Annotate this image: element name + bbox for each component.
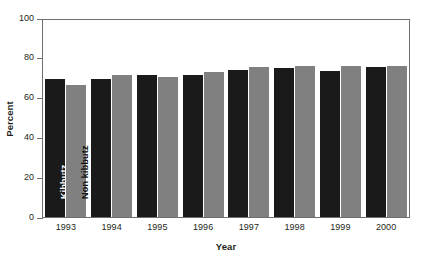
bar-kibbutz[interactable]: Kibbutz bbox=[45, 79, 65, 217]
bar-kibbutz[interactable] bbox=[228, 70, 248, 217]
y-axis-tick-label: 60 bbox=[24, 91, 34, 104]
in-bar-label-non-kibbutz: Non kibbutz bbox=[80, 99, 90, 199]
bar-kibbutz[interactable] bbox=[366, 67, 386, 217]
y-axis-tick-label: 20 bbox=[24, 171, 34, 184]
bar-kibbutz[interactable] bbox=[183, 75, 203, 217]
bar-kibbutz[interactable] bbox=[91, 79, 111, 217]
bar-non-kibbutz[interactable] bbox=[295, 66, 315, 217]
bar-group bbox=[274, 20, 315, 217]
bar-non-kibbutz[interactable]: Non kibbutz bbox=[66, 85, 86, 217]
bar-chart-figure: Percent 020406080100 KibbutzNon kibbutz … bbox=[0, 0, 421, 260]
bar-group bbox=[183, 20, 224, 217]
bar-group bbox=[91, 20, 132, 217]
bar-non-kibbutz[interactable] bbox=[387, 66, 407, 217]
bar-group bbox=[228, 20, 269, 217]
bar-non-kibbutz[interactable] bbox=[204, 72, 224, 217]
bar-group bbox=[137, 20, 178, 217]
x-axis-title: Year bbox=[42, 241, 410, 252]
bar-non-kibbutz[interactable] bbox=[112, 75, 132, 217]
bar-group bbox=[320, 20, 361, 217]
y-axis-tick-label: 40 bbox=[24, 131, 34, 144]
bar-non-kibbutz[interactable] bbox=[341, 66, 361, 217]
y-axis-tick-label: 100 bbox=[19, 12, 34, 25]
bar-kibbutz[interactable] bbox=[320, 71, 340, 217]
y-axis-tick-label: 80 bbox=[24, 51, 34, 64]
bar-non-kibbutz[interactable] bbox=[158, 77, 178, 217]
y-axis-tick-label: 0 bbox=[29, 211, 34, 224]
bar-series-container: KibbutzNon kibbutz bbox=[43, 20, 409, 217]
x-axis-tick-label: 2000 bbox=[356, 222, 416, 232]
y-axis-title: Percent bbox=[4, 19, 18, 219]
bar-group bbox=[366, 20, 407, 217]
bar-group: KibbutzNon kibbutz bbox=[45, 20, 86, 217]
bar-kibbutz[interactable] bbox=[274, 68, 294, 217]
bar-kibbutz[interactable] bbox=[137, 75, 157, 217]
bar-non-kibbutz[interactable] bbox=[249, 67, 269, 217]
